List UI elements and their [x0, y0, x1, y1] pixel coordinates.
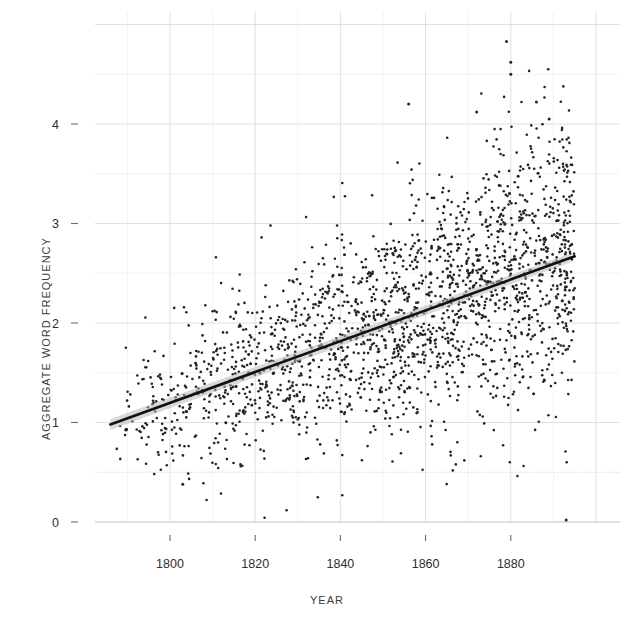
x-tick-label: 1840 [326, 557, 354, 571]
y-tick-label: 3 [52, 217, 59, 231]
scatter-plot: 1800182018401860188001234 [0, 0, 637, 642]
x-axis-label: YEAR [310, 594, 344, 606]
y-tick-label: 4 [52, 118, 59, 132]
y-tick-label: 0 [52, 516, 59, 530]
y-axis-label: AGGREGATE WORD FREQUENCY [40, 237, 52, 440]
y-tick-label: 1 [52, 416, 59, 430]
x-tick-label: 1820 [241, 557, 269, 571]
regression-line [110, 256, 574, 424]
x-tick-label: 1880 [497, 557, 525, 571]
x-tick-label: 1800 [156, 557, 184, 571]
figure-canvas: 1800182018401860188001234 AGGREGATE WORD… [0, 0, 637, 642]
y-tick-label: 2 [52, 317, 59, 331]
x-tick-label: 1860 [412, 557, 440, 571]
